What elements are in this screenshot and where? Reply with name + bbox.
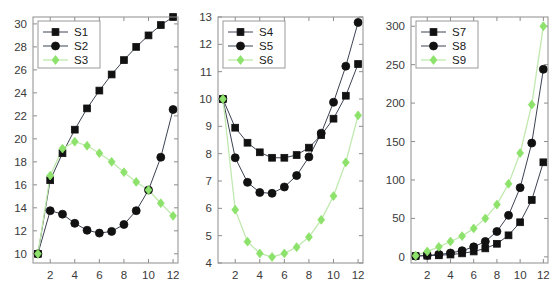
data-point-S4 (330, 115, 337, 122)
legend-marker-S7 (430, 29, 437, 36)
legend-box[interactable] (38, 21, 100, 68)
legend-marker-S4 (237, 29, 244, 36)
y-tick-label: 12 (199, 38, 212, 50)
chart-panel-1: 101214161820222426283024681012S1S2S3 (0, 0, 185, 297)
y-tick-label: 6 (206, 202, 212, 214)
data-point-S8 (539, 65, 547, 73)
legend-marker-S8 (430, 42, 438, 50)
data-point-S1 (71, 126, 78, 133)
x-tick-label: 4 (447, 269, 454, 281)
data-point-S5 (305, 153, 313, 161)
legend-marker-S1 (52, 29, 59, 36)
y-tick-label: 18 (14, 156, 27, 168)
legend-label-S3: S3 (74, 54, 88, 66)
plot-svg-1: 101214161820222426283024681012S1S2S3 (0, 0, 185, 297)
data-point-S4 (293, 152, 300, 159)
x-tick-label: 2 (232, 269, 238, 281)
x-tick-label: 10 (142, 269, 155, 281)
y-tick-label: 14 (14, 202, 27, 214)
data-point-S2 (169, 106, 177, 114)
data-point-S2 (157, 153, 165, 161)
legend-box[interactable] (223, 21, 285, 68)
x-tick-label: 6 (281, 269, 287, 281)
y-tick-label: 10 (14, 248, 27, 260)
y-tick-label: 22 (14, 110, 27, 122)
plot-svg-3: 05010015020025030024681012S7S8S9 (370, 0, 555, 297)
legend-label-S6: S6 (259, 54, 273, 66)
y-tick-label: 30 (14, 18, 27, 30)
legend-marker-S5 (237, 42, 245, 50)
plot-svg-2: 4567891011121324681012S4S5S6 (185, 0, 370, 297)
data-point-S5 (256, 188, 264, 196)
x-tick-label: 10 (327, 269, 340, 281)
data-point-S1 (121, 57, 128, 64)
data-point-S8 (446, 249, 454, 257)
x-tick-label: 12 (167, 269, 180, 281)
data-point-S4 (256, 149, 263, 156)
data-point-S7 (517, 219, 524, 226)
y-tick-label: 10 (199, 93, 212, 105)
y-tick-label: 250 (386, 59, 405, 71)
y-tick-label: 4 (206, 257, 213, 269)
y-tick-label: 11 (200, 66, 212, 78)
data-point-S1 (145, 32, 152, 39)
data-point-S4 (342, 92, 349, 99)
data-point-S1 (96, 87, 103, 94)
x-tick-label: 4 (72, 269, 79, 281)
y-tick-label: 13 (199, 11, 212, 23)
data-point-S7 (494, 240, 501, 247)
data-point-S5 (243, 178, 251, 186)
y-tick-label: 50 (392, 212, 405, 224)
legend-label-S4: S4 (259, 26, 274, 38)
data-point-S8 (528, 139, 536, 147)
x-tick-label: 2 (424, 269, 430, 281)
legend-label-S5: S5 (259, 40, 273, 52)
chart-panel-2: 4567891011121324681012S4S5S6 (185, 0, 370, 297)
data-point-S4 (281, 154, 288, 161)
y-tick-label: 7 (206, 175, 212, 187)
data-point-S2 (95, 229, 103, 237)
data-point-S2 (120, 220, 128, 228)
data-point-S8 (516, 184, 524, 192)
x-tick-label: 12 (352, 269, 365, 281)
data-point-S2 (71, 219, 79, 227)
x-tick-label: 8 (121, 269, 127, 281)
x-tick-label: 2 (47, 269, 53, 281)
x-tick-label: 4 (257, 269, 264, 281)
data-point-S8 (458, 247, 466, 255)
data-point-S7 (540, 159, 547, 166)
x-tick-label: 8 (494, 269, 500, 281)
y-tick-label: 16 (14, 179, 27, 191)
data-point-S2 (58, 210, 66, 218)
y-tick-label: 8 (206, 148, 212, 160)
data-point-S4 (306, 144, 313, 151)
data-point-S5 (280, 183, 288, 191)
x-tick-label: 12 (537, 269, 550, 281)
y-tick-label: 100 (386, 174, 405, 186)
data-point-S5 (317, 129, 325, 137)
data-point-S5 (268, 189, 276, 197)
data-point-S8 (481, 237, 489, 245)
y-tick-label: 20 (14, 133, 27, 145)
data-point-S4 (232, 124, 239, 131)
data-point-S2 (108, 227, 116, 235)
legend-label-S2: S2 (74, 40, 88, 52)
data-point-S2 (132, 207, 140, 215)
data-point-S7 (505, 232, 512, 239)
legend-box[interactable] (416, 21, 478, 68)
y-tick-label: 5 (206, 230, 212, 242)
data-point-S8 (493, 227, 501, 235)
y-tick-label: 26 (14, 64, 27, 76)
x-tick-label: 8 (306, 269, 312, 281)
chart-panel-3: 05010015020025030024681012S7S8S9 (370, 0, 555, 297)
x-tick-label: 6 (470, 269, 476, 281)
data-point-S5 (354, 18, 362, 26)
data-point-S1 (108, 71, 115, 78)
data-point-S8 (505, 211, 513, 219)
legend-marker-S2 (52, 42, 60, 50)
legend-label-S9: S9 (452, 54, 466, 66)
x-tick-label: 10 (514, 269, 527, 281)
y-tick-label: 200 (386, 97, 405, 109)
data-point-S2 (46, 207, 54, 215)
data-point-S5 (231, 154, 239, 162)
